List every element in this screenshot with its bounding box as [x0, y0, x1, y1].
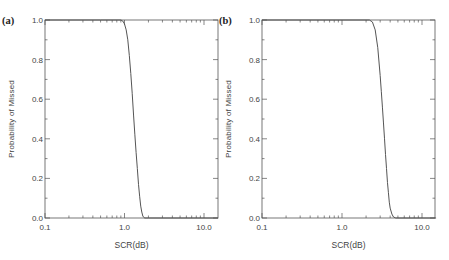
y-tick-label: 0.8 [249, 56, 261, 65]
y-tick-label: 0.2 [249, 174, 261, 183]
y-tick-label: 0.0 [32, 214, 44, 223]
panel-label: (b) [219, 15, 232, 27]
probability-curve [45, 20, 218, 218]
plot-frame [45, 20, 218, 218]
chart-panel-b: 0.11.010.00.00.20.40.60.81.0SCR(dB)Proba… [219, 15, 436, 250]
x-axis-label: SCR(dB) [114, 240, 148, 250]
x-tick-label: 0.1 [256, 223, 268, 232]
y-tick-label: 0.6 [249, 95, 261, 104]
y-tick-label: 0.6 [32, 95, 44, 104]
panel-label: (a) [2, 15, 15, 27]
y-tick-label: 1.0 [249, 16, 261, 25]
y-axis-label: Probability of Missed [224, 80, 233, 158]
plot-frame [262, 20, 435, 218]
chart-panel-a: 0.11.010.00.00.20.40.60.81.0SCR(dB)Proba… [2, 15, 218, 250]
x-tick-label: 10.0 [196, 223, 212, 232]
y-tick-label: 0.2 [32, 174, 44, 183]
x-tick-label: 10.0 [414, 223, 430, 232]
x-tick-label: 0.1 [39, 223, 51, 232]
y-tick-label: 1.0 [32, 16, 44, 25]
figure: 0.11.010.00.00.20.40.60.81.0SCR(dB)Proba… [0, 0, 449, 260]
y-tick-label: 0.0 [249, 214, 261, 223]
probability-curve [262, 20, 436, 218]
y-axis-label: Probability of Missed [7, 80, 16, 158]
y-tick-label: 0.8 [32, 56, 44, 65]
x-axis-label: SCR(dB) [331, 240, 365, 250]
x-tick-label: 1.0 [336, 223, 348, 232]
y-tick-label: 0.4 [32, 135, 44, 144]
y-tick-label: 0.4 [249, 135, 261, 144]
x-tick-label: 1.0 [119, 223, 131, 232]
